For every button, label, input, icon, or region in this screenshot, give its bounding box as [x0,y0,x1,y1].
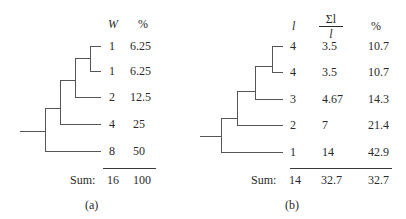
row-pct: 21.4 [368,118,389,132]
row-ratio: 3.5 [322,65,337,79]
caption-a: (a) [85,198,98,212]
row-w: 4 [109,117,115,131]
header-w: W [108,17,118,31]
sum-label: Sum: [70,173,95,187]
row-w: 1 [109,39,115,53]
sum-rule [103,168,156,169]
sum-label: Sum: [251,173,276,187]
row-pct: 50 [133,144,145,158]
row-l: 3 [290,92,296,106]
row-pct: 6.25 [130,64,151,78]
row-l: 4 [290,65,296,79]
sum-pct: 100 [133,173,151,187]
row-ratio: 7 [322,118,328,132]
sum-ratio: 32.7 [321,173,342,187]
row-l: 4 [290,39,296,53]
header-ratio-numerator: Σl [319,13,343,27]
header-sum-l-over-l: Σl l [319,13,343,40]
row-ratio: 4.67 [322,92,343,106]
header-percent: % [138,17,148,31]
row-pct: 10.7 [368,65,389,79]
row-pct: 25 [133,117,145,131]
caption-b: (b) [285,198,299,212]
row-ratio: 3.5 [322,39,337,53]
header-l: l [292,19,295,33]
row-pct: 14.3 [368,92,389,106]
row-pct: 10.7 [368,39,389,53]
sum-rule [290,168,392,169]
sum-pct: 32.7 [368,173,389,187]
row-pct: 6.25 [130,39,151,53]
row-pct: 42.9 [368,145,389,159]
tree-a [0,0,406,219]
row-w: 2 [109,90,115,104]
row-l: 1 [290,145,296,159]
header-percent: % [371,19,381,33]
row-w: 1 [109,64,115,78]
row-l: 2 [290,118,296,132]
row-ratio: 14 [322,145,334,159]
sum-l: 14 [289,173,301,187]
sum-w: 16 [107,173,119,187]
row-w: 8 [109,144,115,158]
row-pct: 12.5 [130,90,151,104]
